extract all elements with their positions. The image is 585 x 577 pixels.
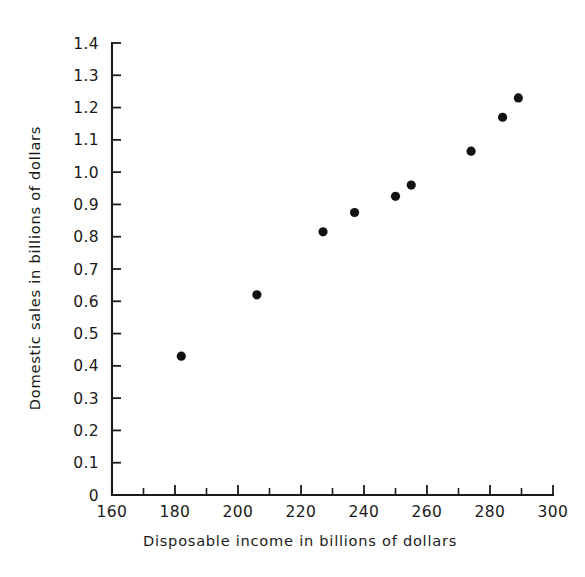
x-axis-tick-label: 180	[160, 503, 191, 521]
data-point	[407, 180, 416, 189]
x-axis-tick-label: 160	[97, 503, 128, 521]
data-point	[318, 227, 327, 236]
x-axis-tick-label: 300	[538, 503, 569, 521]
data-point	[391, 192, 400, 201]
data-points-layer	[177, 93, 523, 360]
x-axis-tick-label: 200	[223, 503, 254, 521]
y-axis-tick-label: 0.5	[73, 325, 99, 343]
y-axis-tick-label: 0.9	[73, 196, 99, 214]
data-point	[498, 113, 507, 122]
data-point	[177, 352, 186, 361]
y-axis-tick-label: 0.7	[73, 261, 99, 279]
x-axis-tick-label: 220	[286, 503, 317, 521]
y-axis-tick-label: 1.1	[73, 131, 99, 149]
y-axis-tick-label: 1.0	[73, 164, 99, 182]
y-axis-tick-label: 0.4	[73, 357, 99, 375]
y-axis-tick-label: 0.1	[73, 454, 99, 472]
x-axis-tick-label: 240	[349, 503, 380, 521]
x-axis-title: Disposable income in billions of dollars	[143, 532, 457, 549]
data-point	[252, 290, 261, 299]
data-point	[350, 208, 359, 217]
data-point	[467, 147, 476, 156]
y-axis-tick-label: 1.4	[73, 35, 99, 53]
x-axis: 160180200220240260280300	[97, 485, 569, 521]
y-axis-tick-label: 0.8	[73, 228, 99, 246]
y-axis-tick-label: 0	[89, 487, 99, 505]
y-axis: 00.10.20.30.40.50.60.70.80.91.01.11.21.3…	[73, 35, 121, 505]
y-axis-tick-label: 0.6	[73, 293, 99, 311]
y-axis-title: Domestic sales in billions of dollars	[26, 126, 43, 410]
data-point	[514, 93, 523, 102]
y-axis-tick-label: 1.3	[73, 67, 99, 85]
scatter-chart-figure: 00.10.20.30.40.50.60.70.80.91.01.11.21.3…	[0, 0, 585, 577]
x-axis-tick-label: 280	[475, 503, 506, 521]
y-axis-tick-label: 1.2	[73, 99, 99, 117]
x-axis-tick-label: 260	[412, 503, 443, 521]
y-axis-tick-label: 0.3	[73, 390, 99, 408]
y-axis-tick-label: 0.2	[73, 422, 99, 440]
chart-canvas: 00.10.20.30.40.50.60.70.80.91.01.11.21.3…	[0, 0, 585, 577]
